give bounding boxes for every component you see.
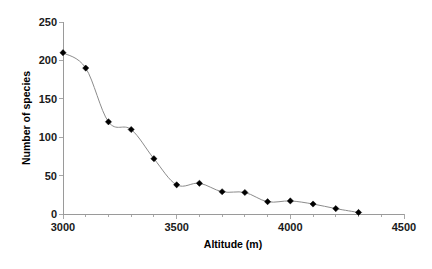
data-point-marker [265, 199, 271, 205]
y-axis-tick-labels: 050100150200250 [39, 16, 57, 220]
x-tick-label: 3500 [164, 221, 188, 233]
x-tick-label: 4000 [278, 221, 302, 233]
y-tick-label: 150 [39, 93, 57, 105]
data-point-marker [174, 182, 180, 188]
data-point-marker [242, 189, 248, 195]
chart-canvas: 050100150200250 3000350040004500 Altitud… [0, 0, 432, 269]
data-point-marker [219, 189, 225, 195]
x-axis-title: Altitude (m) [204, 238, 262, 250]
y-tick-label: 50 [45, 170, 57, 182]
x-tick-label: 4500 [392, 221, 416, 233]
series-line-number-of-species [63, 53, 359, 213]
y-tick-label: 0 [51, 208, 57, 220]
data-point-marker [196, 180, 202, 186]
data-point-marker [287, 198, 293, 204]
y-axis-title: Number of species [20, 71, 32, 165]
series-markers [60, 50, 362, 216]
x-axis-tick-marks [63, 214, 404, 219]
data-point-marker [310, 201, 316, 207]
y-tick-label: 100 [39, 131, 57, 143]
data-point-marker [60, 50, 66, 56]
x-axis-tick-labels: 3000350040004500 [51, 221, 416, 233]
data-point-marker [333, 206, 339, 212]
y-tick-label: 200 [39, 54, 57, 66]
y-tick-label: 250 [39, 16, 57, 28]
species-altitude-chart: 050100150200250 3000350040004500 Altitud… [0, 0, 432, 269]
data-point-marker [355, 209, 361, 215]
x-tick-label: 3000 [51, 221, 75, 233]
